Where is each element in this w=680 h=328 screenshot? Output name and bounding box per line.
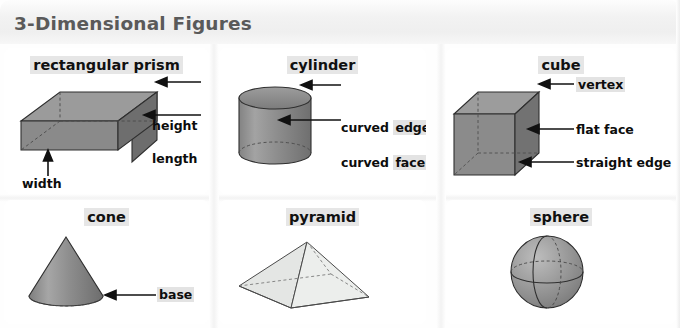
label-width: width — [22, 176, 62, 191]
figure-cell-pyramid: pyramid — [219, 200, 426, 324]
right-edge-shade — [676, 0, 680, 328]
cone-figure — [4, 200, 209, 324]
figures-poster: 3-Dimensional Figures rectangular prism — [0, 0, 680, 328]
figure-cell-cylinder: cylinder — [219, 48, 426, 194]
cube-arrow-vertex — [539, 80, 574, 89]
cylinder-top-ellipse — [239, 87, 311, 109]
cube-arrow-straight-edge — [520, 158, 574, 167]
figure-cell-cube: cube — [446, 48, 676, 194]
column-divider-1 — [209, 44, 219, 328]
sphere-figure — [446, 200, 676, 324]
prism-front-face — [21, 121, 118, 150]
label-flat-face: flat face — [576, 122, 634, 137]
label-vertex: vertex — [576, 77, 625, 92]
figure-cell-sphere: sphere — [446, 200, 676, 324]
label-vertex-text: vertex — [576, 77, 625, 92]
figure-cell-cone: cone base — [4, 200, 209, 324]
title-band: 3-Dimensional Figures — [0, 0, 680, 44]
cube-front-face — [454, 114, 515, 175]
label-curved-word: curved — [341, 155, 389, 170]
pyramid-figure — [219, 200, 426, 324]
cylinder-arrow-curved-edge — [301, 81, 341, 90]
prism-arrow-height — [156, 78, 201, 87]
sphere-body — [511, 236, 583, 308]
label-height: height — [152, 118, 197, 133]
label-length: length — [152, 151, 197, 166]
cube-arrow-flat-face — [528, 125, 574, 134]
label-straight-edge: straight edge — [576, 155, 671, 170]
label-face-word: face — [393, 155, 426, 170]
prism-arrow-width — [44, 150, 53, 176]
cube-figure — [446, 48, 676, 194]
label-curved-edge: curved edge — [341, 120, 426, 135]
label-edge-word: edge — [393, 120, 426, 135]
label-base-text: base — [157, 287, 194, 302]
label-base: base — [157, 287, 194, 302]
label-curved-word: curved — [341, 120, 389, 135]
cone-arrow-base — [105, 291, 156, 300]
page-title: 3-Dimensional Figures — [14, 13, 252, 34]
figure-cell-rectangular-prism: rectangular prism — [4, 48, 209, 194]
column-divider-2 — [436, 44, 446, 328]
label-curved-face: curved face — [341, 155, 426, 170]
cone-body — [29, 237, 103, 306]
